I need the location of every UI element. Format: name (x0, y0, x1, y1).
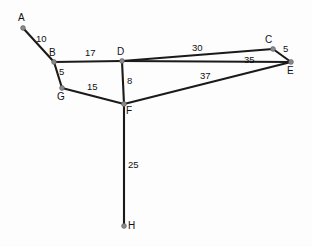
graph-node-a[interactable] (21, 26, 26, 31)
node-label-f: F (126, 106, 132, 116)
edge-weight-label-f-e: 37 (200, 71, 211, 81)
graph-node-b[interactable] (52, 60, 57, 65)
node-label-d: D (117, 47, 124, 57)
edge-weight-label-b-d: 17 (85, 48, 96, 58)
graph-node-h[interactable] (122, 224, 127, 229)
edge-weight-label-d-c: 30 (192, 43, 203, 53)
graph-edge-c-e (273, 49, 291, 62)
node-label-a: A (18, 13, 25, 23)
graph-node-e[interactable] (289, 60, 294, 65)
graph-edge-d-e (122, 61, 291, 62)
node-label-g: G (57, 92, 65, 102)
graph-node-g[interactable] (60, 86, 65, 91)
node-label-c: C (265, 35, 272, 45)
graph-edge-f-e (124, 62, 291, 104)
edge-weight-label-b-g: 5 (59, 67, 64, 77)
node-label-h: H (128, 221, 135, 231)
node-label-b: B (49, 48, 56, 58)
graph-edge-d-f (122, 61, 124, 104)
node-label-e: E (287, 66, 294, 76)
graph-node-d[interactable] (120, 59, 125, 64)
graph-diagram-canvas: 10175158303553725ABCDEFGH (0, 0, 312, 247)
edge-weight-label-a-b: 10 (36, 34, 47, 44)
graph-node-c[interactable] (271, 47, 276, 52)
edge-weight-label-f-h: 25 (128, 160, 139, 170)
graph-edge-b-d (54, 61, 122, 62)
edge-weight-label-c-e: 5 (283, 44, 288, 54)
edge-weight-label-d-f: 8 (127, 76, 132, 86)
edge-weight-label-d-e: 35 (244, 55, 255, 65)
edge-weight-label-g-f: 15 (87, 82, 98, 92)
